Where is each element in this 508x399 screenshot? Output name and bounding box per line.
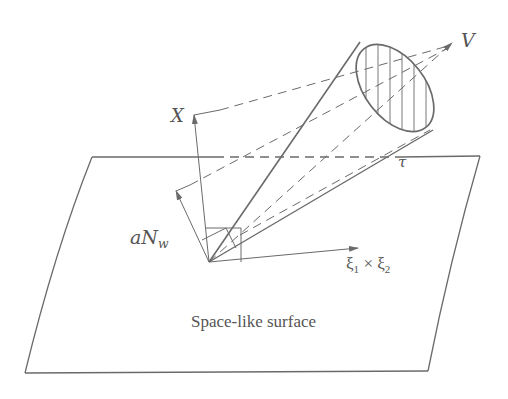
space-like-surface-outline xyxy=(25,156,480,373)
label-space-like-surface: Space-like surface xyxy=(191,313,316,330)
label-xi1: ξ xyxy=(346,254,354,273)
label-xi2-sub: 2 xyxy=(385,263,391,275)
label-x: X xyxy=(171,107,184,125)
label-xi2: ξ xyxy=(377,254,385,273)
label-xi-cross: ξ1 × ξ2 xyxy=(346,255,390,275)
label-anw: aNw xyxy=(130,228,169,251)
label-cross-op: × xyxy=(359,254,377,273)
label-anw-main: aN xyxy=(130,226,158,248)
label-tau: τ xyxy=(398,155,406,170)
label-v: V xyxy=(461,31,475,50)
diagram-drawing xyxy=(0,0,508,399)
diagram-canvas: V X τ aNw ξ1 × ξ2 Space-like surface xyxy=(0,0,508,399)
label-anw-sub: w xyxy=(158,237,169,251)
